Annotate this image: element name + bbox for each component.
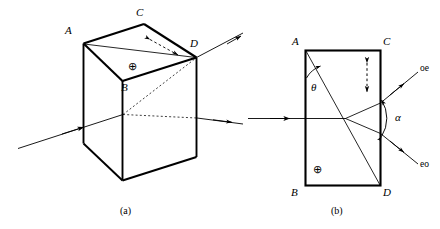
panel-a-group — [18, 24, 243, 181]
panel-a-prism-body — [84, 24, 197, 181]
panel-a-optic-axis-symbol: ⊕ — [128, 61, 137, 72]
panel-b-alpha-arc — [382, 100, 387, 137]
panel-b-exit-ray-eo-arrowhead — [390, 141, 404, 153]
panel-a-exit-ray-lower-arrowhead — [213, 120, 232, 123]
panel-a-incident-ray-arrowhead — [62, 127, 84, 134]
panel-b-alpha-label: α — [395, 112, 401, 123]
panel-b-ray-label-oe: oe — [420, 64, 429, 74]
panel-b-ray-label-eo: eo — [420, 160, 429, 170]
prism-edge-top-A-C — [84, 24, 145, 44]
panel-a-internal-ray-lower — [123, 115, 197, 119]
figure-root: A B C D ⊕ (a) A B C D θ α oe eo ⊕ (b) — [0, 0, 440, 229]
panel-a-label-A: A — [65, 25, 72, 36]
panel-a-label-B: B — [121, 82, 128, 93]
panel-b-label-B: B — [291, 187, 298, 198]
prism-edge-bottom-left — [84, 144, 123, 181]
prism-edge-bottom-right — [123, 157, 197, 181]
panel-a-label-C: C — [136, 7, 143, 18]
panel-b-optic-axis-symbol: ⊕ — [313, 164, 322, 175]
panel-b-theta-label: θ — [311, 82, 316, 93]
panel-b-label-C: C — [383, 36, 390, 47]
panel-b-exit-ray-oe-arrowhead — [390, 84, 404, 96]
panel-a-exit-ray-upper — [197, 33, 244, 58]
panel-a-label-D: D — [190, 38, 198, 49]
panel-b-label-D: D — [383, 187, 391, 198]
prism-edge-top-front-A — [84, 44, 123, 82]
panel-b-internal-branch-upper — [346, 103, 381, 119]
panel-b-caption: (b) — [331, 206, 343, 216]
panel-b-theta-arc — [307, 66, 321, 78]
panel-b-group — [248, 51, 418, 186]
panel-a-caption: (a) — [120, 206, 131, 216]
panel-b-label-A: A — [292, 36, 299, 47]
